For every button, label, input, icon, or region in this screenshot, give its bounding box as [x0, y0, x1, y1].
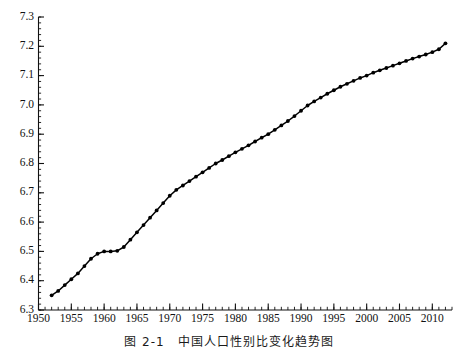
svg-text:1955: 1955	[60, 312, 83, 324]
svg-text:6.9: 6.9	[20, 127, 35, 139]
svg-text:6.4: 6.4	[20, 273, 35, 285]
svg-text:1985: 1985	[257, 312, 280, 324]
svg-text:6.7: 6.7	[20, 185, 35, 197]
svg-text:7.0: 7.0	[20, 98, 35, 110]
svg-text:2000: 2000	[355, 312, 378, 324]
svg-text:6.8: 6.8	[20, 156, 35, 168]
figure-caption: 图 2-1 中国人口性别比变化趋势图	[0, 332, 458, 349]
svg-text:2010: 2010	[421, 312, 444, 324]
svg-text:6.6: 6.6	[20, 215, 35, 227]
svg-text:1975: 1975	[191, 312, 214, 324]
svg-text:1995: 1995	[322, 312, 345, 324]
svg-text:7.3: 7.3	[20, 10, 35, 22]
svg-text:6.5: 6.5	[20, 244, 35, 256]
y-axis: 6.36.46.56.66.76.86.97.07.17.27.3	[20, 10, 44, 315]
x-axis: 1950195519601965197019751980198519901995…	[27, 304, 452, 325]
svg-text:7.2: 7.2	[20, 39, 35, 51]
svg-text:1980: 1980	[224, 312, 247, 324]
svg-text:1965: 1965	[125, 312, 148, 324]
svg-text:1950: 1950	[27, 312, 50, 324]
svg-text:2005: 2005	[388, 312, 411, 324]
svg-text:1990: 1990	[290, 312, 313, 324]
data-series	[50, 41, 448, 297]
svg-text:7.1: 7.1	[20, 68, 35, 80]
svg-text:1960: 1960	[93, 312, 116, 324]
svg-text:1970: 1970	[158, 312, 181, 324]
